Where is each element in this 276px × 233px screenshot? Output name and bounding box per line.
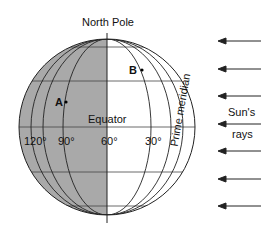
sun-rays-label-line1: Sun's	[228, 106, 255, 118]
north-pole-label: North Pole	[82, 16, 134, 28]
sun-rays-label-line2: rays	[232, 128, 253, 140]
equator-label: Equator	[88, 113, 127, 125]
point-b-label: B	[129, 64, 137, 76]
longitude-120-label: 120°	[24, 135, 47, 147]
point-a-label: A	[55, 96, 63, 108]
point-b-dot	[140, 68, 143, 71]
longitude-60-label: 60°	[101, 135, 118, 147]
longitude-30-label: 30°	[145, 135, 162, 147]
earth-sunlight-diagram: North Pole A B Equator 120° 90° 60° 30° …	[0, 0, 276, 233]
longitude-90-label: 90°	[58, 135, 75, 147]
sun-ray-arrows	[218, 38, 261, 209]
point-a-dot	[64, 100, 67, 103]
